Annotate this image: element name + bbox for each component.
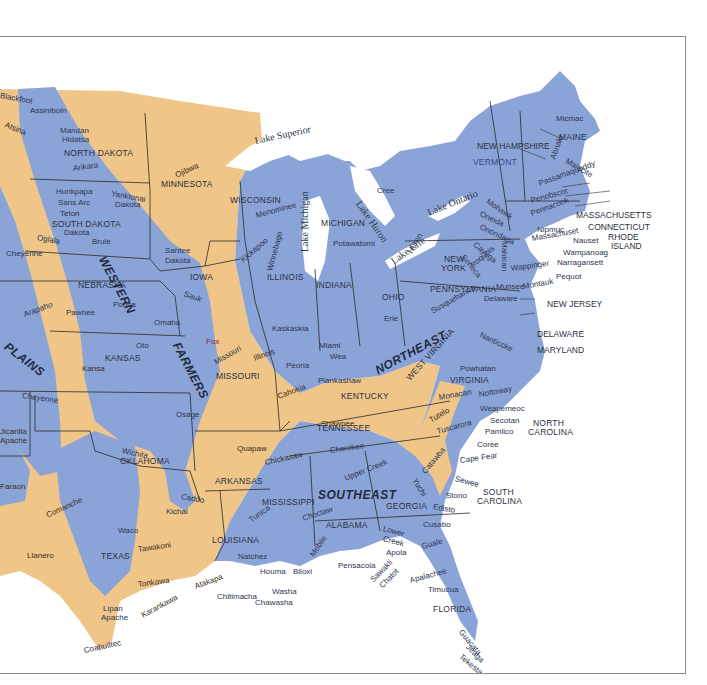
state-label-iowa: IOWA xyxy=(190,273,213,282)
tribe-label: Nauset xyxy=(573,237,598,245)
tribe-label: Faraon xyxy=(0,483,25,491)
tribe-label: Cree xyxy=(377,187,394,195)
tribe-label: Erie xyxy=(384,315,398,323)
tribe-label: Natchez xyxy=(238,553,267,561)
tribe-label: Piankashaw xyxy=(318,377,361,385)
state-label-florida: FLORIDA xyxy=(433,605,471,614)
tribe-label: Kichai xyxy=(166,508,188,516)
state-label-vermont: VERMONT xyxy=(473,158,517,167)
state-label-new-jersey: NEW JERSEY xyxy=(547,300,602,309)
state-label-minnesota: MINNESOTA xyxy=(161,180,213,189)
state-label-indiana: INDIANA xyxy=(316,281,352,290)
tribe-label: Timucua xyxy=(428,586,458,594)
region-label-southeast: SOUTHEAST xyxy=(318,489,397,501)
tribe-label: Teton xyxy=(60,210,80,218)
tribe-label: Dakota xyxy=(115,201,140,209)
state-label-north-carolina-2: CAROLINA xyxy=(528,428,573,437)
tribe-label: Wampanoag xyxy=(563,249,608,257)
tribe-label: Chitimacha xyxy=(217,593,257,601)
tribe-label: Dakota xyxy=(64,229,89,237)
tribe-label: Delaware xyxy=(484,295,518,303)
tribe-label: Munsee xyxy=(496,283,524,291)
state-label-alabama: ALABAMA xyxy=(326,521,368,530)
tribe-label: Hunkpapa xyxy=(56,188,92,196)
tribe-label: Apola xyxy=(386,549,406,557)
state-label-maryland: MARYLAND xyxy=(537,346,584,355)
tribe-label: Cheyenne xyxy=(6,250,42,258)
tribe-label: Jicarilla xyxy=(0,428,27,436)
lake-label-michigan: Lake Michigan xyxy=(300,191,310,252)
tribe-label: Mahican xyxy=(500,241,508,271)
tribe-label: Omaha xyxy=(154,319,180,327)
state-label-kentucky: KENTUCKY xyxy=(341,392,389,401)
tribe-label: Biloxi xyxy=(293,568,312,576)
map-frame: WESTERN PLAINS FARMERS NORTHEAST SOUTHEA… xyxy=(0,36,686,674)
state-label-virginia: VIRGINIA xyxy=(450,376,489,385)
tribe-label: Kaskaskia xyxy=(272,325,308,333)
tribe-label: Hidatsa xyxy=(62,136,89,144)
tribe-label: Pawnee xyxy=(66,309,95,317)
state-label-nebraska: NEBRASKA xyxy=(78,281,126,290)
state-label-massachusetts: MASSACHUSETTS xyxy=(576,211,652,220)
tribe-label: Pequot xyxy=(556,273,581,281)
tribe-label: Lipan xyxy=(103,605,123,613)
state-label-delaware: DELAWARE xyxy=(537,330,584,339)
tribe-label: Micmac xyxy=(556,115,584,123)
state-label-new-hampshire: NEW HAMPSHIRE xyxy=(477,142,550,151)
tribe-label: Peoria xyxy=(286,362,309,370)
tribe-label: Cusabo xyxy=(423,521,451,529)
tribe-label: Shawnee xyxy=(321,420,354,428)
tribe-label: Stono xyxy=(446,492,467,500)
tribe-label: Coree xyxy=(477,441,499,449)
tribe-label: Houma xyxy=(260,568,286,576)
state-label-missouri: MISSOURI xyxy=(216,372,260,381)
tribe-label: Assiniboin xyxy=(30,107,66,115)
tribe-label: Llanero xyxy=(27,552,54,560)
tribe-label: Quapaw xyxy=(237,445,267,453)
state-label-louisiana: LOUISIANA xyxy=(212,536,259,545)
tribe-label: Brule xyxy=(92,238,111,246)
state-label-illinois: ILLINOIS xyxy=(267,273,304,282)
state-label-ohio: OHIO xyxy=(382,293,405,302)
tribe-label: Sans Arc xyxy=(58,199,90,207)
state-label-connecticut: CONNECTICUT xyxy=(588,223,650,232)
tribe-label: Wea xyxy=(330,353,346,361)
tribe-label: Potawatomi xyxy=(333,240,375,248)
tribe-label: Santee xyxy=(165,247,190,255)
state-label-north-dakota: NORTH DAKOTA xyxy=(64,149,133,158)
tribe-label: Pensacola xyxy=(338,562,375,570)
state-label-wisconsin: WISCONSIN xyxy=(230,196,281,205)
tribe-label: Apache xyxy=(0,437,27,445)
tribe-label: Pamlico xyxy=(485,428,513,436)
tribe-label: Mandan xyxy=(60,127,89,135)
tribe-label: Apache xyxy=(101,614,128,622)
tribe-label: Nipmuc xyxy=(537,226,564,234)
tribe-label: Narragansett xyxy=(557,259,603,267)
tribe-label: Kansa xyxy=(82,365,105,373)
tribe-label: Waco xyxy=(118,527,138,535)
tribe-label: Powhatan xyxy=(460,365,496,373)
state-label-mississippi: MISSISSIPPI xyxy=(262,498,315,507)
tribe-label: Secotan xyxy=(490,417,519,425)
tribe-label: Miami xyxy=(319,342,340,350)
tribe-label: Weapemeoc xyxy=(480,405,525,413)
state-label-new-york-2: YORK xyxy=(441,264,466,273)
tribe-label: Fox xyxy=(206,338,219,346)
state-label-arkansas: ARKANSAS xyxy=(215,477,263,486)
state-label-rhode-island-2: ISLAND xyxy=(611,242,642,251)
tribe-label: Dakota xyxy=(165,257,190,265)
state-label-kansas: KANSAS xyxy=(105,354,141,363)
state-label-georgia: GEORGIA xyxy=(386,502,427,511)
state-label-texas: TEXAS xyxy=(101,552,130,561)
tribe-label: Washa xyxy=(272,588,297,596)
tribe-label: Ponca xyxy=(113,301,136,309)
state-label-michigan: MICHIGAN xyxy=(321,219,365,228)
tribe-label: Chawasha xyxy=(255,599,293,607)
tribe-label: Oto xyxy=(136,342,149,350)
tribe-label: Osage xyxy=(176,411,200,419)
state-label-south-carolina-2: CAROLINA xyxy=(477,497,522,506)
